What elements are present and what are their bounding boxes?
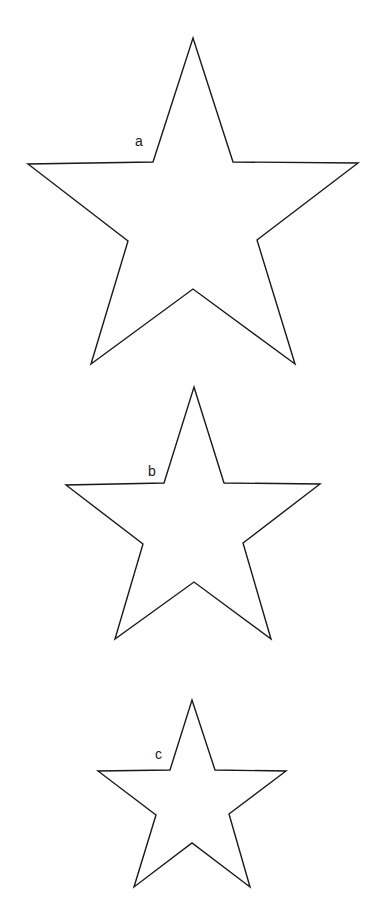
star-b-label: b — [148, 463, 156, 479]
star-a-shape — [28, 38, 358, 364]
star-b-group: b — [66, 387, 320, 639]
star-c-shape — [98, 700, 286, 887]
star-b-shape — [66, 387, 320, 639]
star-c-label: c — [155, 746, 162, 762]
star-c-group: c — [98, 700, 286, 887]
star-a-group: a — [28, 38, 358, 364]
stars-diagram: a b c — [0, 0, 382, 916]
star-a-label: a — [135, 133, 143, 149]
